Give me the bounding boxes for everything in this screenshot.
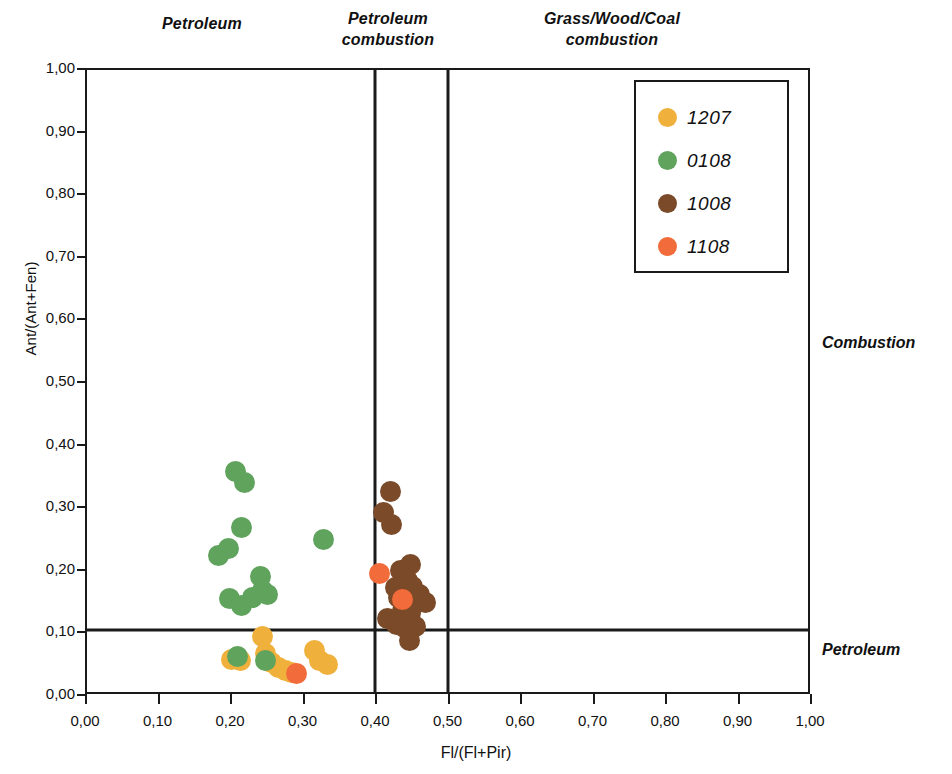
x-axis-tick <box>810 694 812 704</box>
data-point <box>257 584 278 605</box>
legend-swatch-icon <box>658 194 677 213</box>
zone-label-petroleum: Petroleum <box>108 13 296 34</box>
legend-item-label: 1207 <box>687 107 731 129</box>
legend-item-0108[interactable]: 0108 <box>636 139 787 182</box>
legend-item-label: 1108 <box>687 236 730 258</box>
x-axis-tick-label: 0,30 <box>268 712 338 729</box>
legend-item-1207[interactable]: 1207 <box>636 96 787 139</box>
data-point <box>380 481 401 502</box>
legend: 1207010810081108 <box>634 80 789 273</box>
y-axis-tick-label: 0,40 <box>17 435 75 452</box>
y-axis-tick-label: 0,90 <box>17 122 75 139</box>
x-axis-tick-label: 0,60 <box>485 712 555 729</box>
x-axis-tick <box>303 694 305 704</box>
horizontal-reference-line <box>85 628 810 631</box>
x-axis-tick-label: 0,20 <box>195 712 265 729</box>
legend-item-label: 1008 <box>687 193 731 215</box>
y-axis-tick-label: 0,50 <box>17 372 75 389</box>
x-axis-tick <box>738 694 740 704</box>
x-axis-title: Fl/(Fl+Pir) <box>0 744 952 762</box>
x-axis-tick <box>448 694 450 704</box>
data-point <box>234 472 255 493</box>
x-axis-tick <box>158 694 160 704</box>
data-point <box>286 663 307 684</box>
y-axis-tick-label: 0,30 <box>17 497 75 514</box>
x-axis-tick <box>375 694 377 704</box>
x-axis-tick-label: 0,40 <box>340 712 410 729</box>
data-point <box>399 630 420 651</box>
x-axis-tick <box>85 694 87 704</box>
x-axis-tick-label: 0,10 <box>123 712 193 729</box>
y-axis-tick-label: 0,10 <box>17 622 75 639</box>
legend-swatch-icon <box>658 108 677 127</box>
data-point <box>392 589 413 610</box>
data-point <box>231 517 252 538</box>
x-axis-tick-label: 0,00 <box>50 712 120 729</box>
x-axis-tick <box>593 694 595 704</box>
y-axis-tick-label: 0,20 <box>17 560 75 577</box>
legend-swatch-icon <box>658 237 677 256</box>
x-axis-tick <box>665 694 667 704</box>
x-axis-tick-label: 0,70 <box>558 712 628 729</box>
data-point <box>255 650 276 671</box>
zone-label-petroleum-combustion: Petroleumcombustion <box>300 8 476 50</box>
x-axis-tick-label: 0,80 <box>630 712 700 729</box>
zone-label-petroleum-right: Petroleum <box>822 641 900 659</box>
y-axis-tick-label: 0,60 <box>17 309 75 326</box>
data-point <box>317 654 338 675</box>
zone-label-combustion: Combustion <box>822 334 915 352</box>
data-point <box>369 563 390 584</box>
x-axis-tick-label: 0,50 <box>413 712 483 729</box>
y-axis-tick-label: 0,00 <box>17 685 75 702</box>
x-axis-tick-label: 0,90 <box>703 712 773 729</box>
zone-label-grass-wood-coal-combustion: Grass/Wood/Coalcombustion <box>492 8 732 50</box>
data-point <box>381 514 402 535</box>
legend-item-1108[interactable]: 1108 <box>636 225 787 268</box>
data-point <box>313 529 334 550</box>
legend-item-label: 0108 <box>687 150 731 172</box>
legend-item-1008[interactable]: 1008 <box>636 182 787 225</box>
x-axis-tick-label: 1,00 <box>775 712 845 729</box>
legend-swatch-icon <box>658 151 677 170</box>
x-axis-tick <box>230 694 232 704</box>
data-point <box>218 538 239 559</box>
y-axis-tick-label: 0,80 <box>17 184 75 201</box>
y-axis-tick-label: 0,70 <box>17 247 75 264</box>
y-axis-tick-label: 1,00 <box>17 59 75 76</box>
scatter-chart: Petroleum Petroleumcombustion Grass/Wood… <box>0 0 952 774</box>
x-axis-tick <box>520 694 522 704</box>
vertical-reference-line <box>374 68 377 694</box>
vertical-reference-line <box>446 68 449 694</box>
